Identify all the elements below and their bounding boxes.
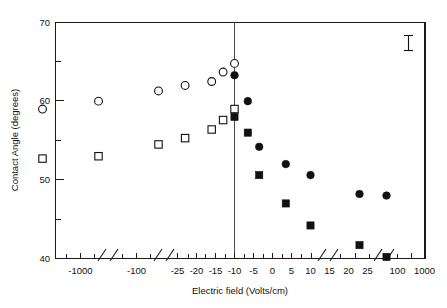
data-point-filled-circle-0	[231, 71, 239, 79]
data-point-filled-square-5	[356, 242, 363, 249]
data-point-open-circle-3	[181, 82, 189, 90]
data-point-open-square-2	[155, 141, 162, 148]
data-point-open-square-1	[95, 153, 102, 160]
data-point-open-square-6	[231, 105, 238, 112]
x-tick-label-15: 15	[324, 265, 335, 276]
y-axis-ticks	[56, 23, 64, 259]
data-point-filled-circle-1	[244, 97, 252, 105]
x-tick-label-100: 100	[390, 265, 406, 276]
series-filled-square	[231, 113, 390, 260]
y-tick-label-50: 50	[39, 174, 50, 185]
x-tick-label-25: 25	[362, 265, 373, 276]
y-tick-label-70: 70	[39, 17, 50, 28]
x-tick-labels: -1000 -100 -25 -20 -15 -10 -5 0 5 10 15 …	[68, 265, 435, 276]
x-tick-label-neg1000: -1000	[68, 265, 92, 276]
data-marker-layer	[39, 60, 391, 261]
data-point-open-circle-4	[208, 78, 216, 86]
x-tick-label-1000: 1000	[414, 265, 435, 276]
data-point-filled-square-3	[282, 200, 289, 207]
data-point-open-circle-1	[95, 97, 103, 105]
data-point-open-square-0	[39, 155, 46, 162]
series-filled-circle	[231, 71, 391, 199]
x-tick-label-5: 5	[289, 265, 294, 276]
y-tick-label-60: 60	[39, 95, 50, 106]
data-point-filled-square-2	[256, 172, 263, 179]
x-axis-title: Electric field (Volts/cm)	[192, 285, 288, 296]
axis-break-marks	[98, 249, 394, 261]
scatter-plot: 40 50 60 70 -1000 -100 -25 -20 -15 -10 -…	[0, 0, 447, 308]
chart-figure: 40 50 60 70 -1000 -100 -25 -20 -15 -10 -…	[0, 0, 447, 308]
y-tick-labels: 40 50 60 70	[39, 17, 50, 264]
data-point-filled-circle-5	[356, 190, 364, 198]
data-point-filled-circle-3	[282, 160, 290, 168]
data-point-filled-square-4	[307, 222, 314, 229]
data-point-filled-square-0	[231, 113, 238, 120]
x-tick-label-neg25: -25	[171, 265, 185, 276]
data-point-filled-circle-2	[255, 143, 263, 151]
data-point-open-circle-2	[155, 87, 163, 95]
x-tick-label-neg20: -20	[190, 265, 204, 276]
x-axis-ticks	[67, 253, 426, 259]
x-tick-label-20: 20	[343, 265, 354, 276]
series-open-square	[39, 105, 238, 162]
data-point-filled-circle-6	[383, 192, 391, 200]
series-open-circle	[39, 60, 239, 113]
y-tick-label-40: 40	[39, 253, 50, 264]
x-tick-label-neg10: -10	[228, 265, 242, 276]
data-point-filled-square-1	[244, 129, 251, 136]
data-point-open-square-3	[181, 134, 188, 141]
data-point-open-circle-5	[219, 68, 227, 76]
data-point-filled-square-6	[383, 253, 390, 260]
data-point-open-circle-0	[39, 105, 47, 113]
x-tick-label-10: 10	[305, 265, 316, 276]
x-tick-label-neg15: -15	[209, 265, 223, 276]
error-bar-icon	[404, 35, 413, 51]
plot-frame	[55, 22, 426, 259]
x-tick-label-0: 0	[270, 265, 275, 276]
y-axis-title: Contact Angle (degrees)	[9, 89, 20, 191]
x-tick-label-neg100: -100	[127, 265, 146, 276]
data-point-open-square-4	[208, 126, 215, 133]
x-tick-label-neg5: -5	[249, 265, 257, 276]
data-point-filled-circle-4	[307, 171, 315, 179]
data-point-open-circle-6	[231, 60, 239, 68]
data-point-open-square-5	[219, 116, 226, 123]
